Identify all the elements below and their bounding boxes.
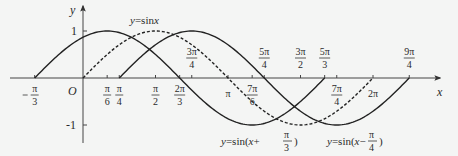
svg-text:2: 2	[298, 59, 303, 70]
svg-text:π: π	[284, 129, 289, 140]
x-tick-label: 2π3	[174, 83, 185, 107]
svg-text:π: π	[369, 129, 374, 140]
svg-text:3π: 3π	[187, 46, 197, 57]
origin-label: O	[68, 84, 77, 98]
svg-text:7π: 7π	[247, 83, 257, 94]
label-sin-x-minus-pi-4: y=sin(x− π 4 )	[326, 129, 383, 153]
x-tick-label: π6	[103, 83, 111, 107]
x-tick-label: 5π3	[319, 46, 330, 70]
x-axis-label: x	[436, 85, 443, 99]
svg-text:4: 4	[407, 59, 412, 70]
x-tick-label: π	[225, 88, 230, 99]
x-tick-label: 9π4	[404, 46, 415, 70]
x-tick-label: 7π6	[247, 83, 258, 107]
svg-text:): )	[379, 135, 383, 148]
svg-text:π: π	[32, 83, 37, 94]
svg-text:y=sinx: y=sinx	[129, 14, 159, 26]
x-tick-label: 3π4	[186, 46, 197, 70]
x-tick-labels: π3π6π4π22π33π4π7π65π43π25π37π42π9π4	[23, 46, 415, 107]
x-tick-label: π2	[152, 83, 160, 107]
svg-text:9π: 9π	[404, 46, 414, 57]
x-tick-label: 2π	[368, 88, 378, 99]
y-axis-label: y	[69, 3, 76, 17]
svg-text:3: 3	[32, 96, 37, 107]
svg-text:4: 4	[117, 96, 122, 107]
svg-text:): )	[294, 135, 298, 148]
svg-text:5π: 5π	[259, 46, 269, 57]
svg-text:5π: 5π	[320, 46, 330, 57]
y-one-label: 1	[71, 24, 77, 38]
svg-text:7π: 7π	[332, 83, 342, 94]
svg-text:4: 4	[189, 59, 194, 70]
svg-text:6: 6	[250, 96, 255, 107]
x-tick-label: 5π4	[259, 46, 270, 70]
label-sinx: y=sinx	[129, 14, 159, 26]
svg-text:y=sin(x+: y=sin(x+	[220, 135, 260, 148]
x-tick-label: 7π4	[331, 83, 342, 107]
svg-text:2π: 2π	[175, 83, 185, 94]
svg-text:3: 3	[177, 96, 182, 107]
svg-text:π: π	[153, 83, 158, 94]
svg-text:y=sin(x−: y=sin(x−	[326, 135, 366, 148]
svg-text:4: 4	[334, 96, 339, 107]
svg-text:2π: 2π	[368, 88, 378, 99]
svg-text:3π: 3π	[295, 46, 305, 57]
y-neg-one-label: -1	[66, 118, 76, 132]
svg-text:4: 4	[262, 59, 267, 70]
label-sin-x-plus-pi-3: y=sin(x+ π 3 )	[220, 129, 298, 153]
x-tick-label: π4	[115, 83, 123, 107]
svg-text:6: 6	[105, 96, 110, 107]
svg-text:4: 4	[369, 142, 374, 153]
svg-text:3: 3	[322, 59, 327, 70]
x-tick-label: 3π2	[295, 46, 306, 70]
svg-text:π: π	[105, 83, 110, 94]
sine-graph: π3π6π4π22π33π4π7π65π43π25π37π42π9π4 y x …	[0, 0, 458, 156]
svg-text:3: 3	[284, 142, 289, 153]
x-tick-label: π3	[23, 83, 39, 107]
svg-text:π: π	[117, 83, 122, 94]
svg-text:2: 2	[153, 96, 158, 107]
svg-text:π: π	[225, 88, 230, 99]
